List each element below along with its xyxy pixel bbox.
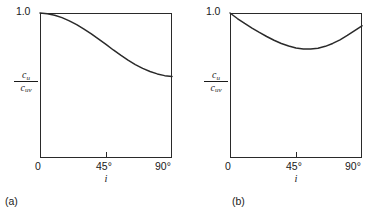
- x-tick-label-90: 90°: [155, 161, 171, 172]
- x-tick-label-0: 0: [225, 161, 231, 172]
- curve-a-path: [40, 13, 172, 77]
- x-tick-label-0: 0: [35, 161, 41, 172]
- figure-two-panel-plots: 1.0 cu cuv 0 45° 90° i (a) 1.0 cu cuv: [0, 0, 380, 219]
- y-axis-numerator: cu: [13, 70, 39, 81]
- panel-b: 1.0 cu cuv 0 45° 90° i (b): [190, 0, 380, 219]
- panel-caption-a: (a): [5, 196, 18, 207]
- x-tick-mark-45: [106, 152, 107, 158]
- y-axis-denominator: cuv: [203, 82, 229, 93]
- x-axis-label: i: [230, 174, 362, 185]
- y-axis-denominator-subscript: uv: [215, 86, 222, 94]
- x-tick-label-90: 90°: [345, 161, 361, 172]
- y-axis-label-fraction: cu cuv: [13, 70, 39, 93]
- y-axis-numerator-subscript: u: [216, 74, 220, 82]
- x-tick-label-45: 45°: [286, 161, 302, 172]
- y-axis-numerator: cu: [203, 70, 229, 81]
- y-axis-denominator: cuv: [13, 82, 39, 93]
- curve-b-path: [230, 13, 362, 49]
- curve-b: [230, 13, 362, 158]
- curve-a: [40, 13, 172, 158]
- x-tick-mark-45: [296, 152, 297, 158]
- x-tick-label-45: 45°: [96, 161, 112, 172]
- x-axis-label: i: [40, 174, 172, 185]
- panel-a: 1.0 cu cuv 0 45° 90° i (a): [0, 0, 190, 219]
- panel-caption-b: (b): [232, 196, 245, 207]
- y-axis-max-label: 1.0: [16, 6, 30, 17]
- y-axis-numerator-subscript: u: [26, 74, 30, 82]
- y-axis-max-label: 1.0: [206, 6, 220, 17]
- y-axis-label-fraction: cu cuv: [203, 70, 229, 93]
- y-axis-denominator-subscript: uv: [25, 86, 32, 94]
